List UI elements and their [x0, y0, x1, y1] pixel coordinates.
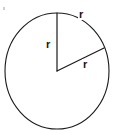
- geometry-figure: r r r: [0, 0, 113, 133]
- arc-radius-label: r: [78, 9, 84, 20]
- vertical-radius-label: r: [45, 39, 51, 50]
- slanted-radius-label: r: [82, 59, 88, 70]
- scan-speck-artifact: [3, 7, 5, 10]
- slanted-radius-line: [57, 48, 104, 71]
- circle-diagram-svg: [0, 0, 113, 133]
